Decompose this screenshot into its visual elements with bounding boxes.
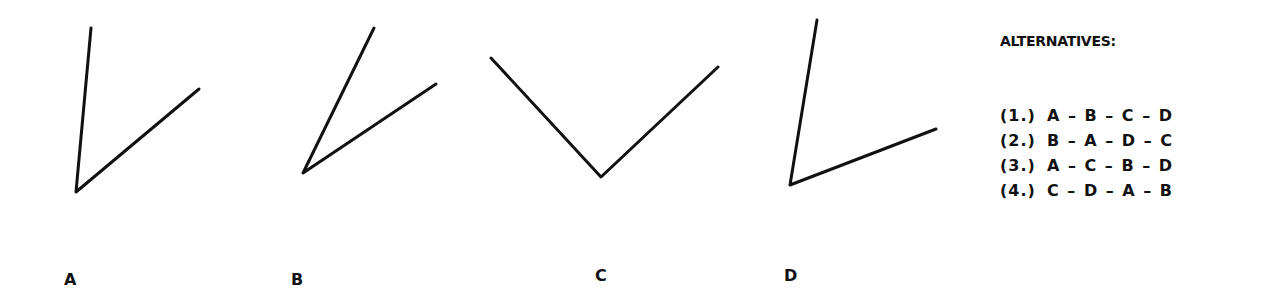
figure-label-a: A (64, 270, 76, 289)
option-number: (4.) (1000, 178, 1047, 203)
figure-label-c: C (595, 266, 607, 285)
figure-label-d: D (784, 266, 797, 285)
alternatives-title: ALTERNATIVES: (1000, 33, 1172, 49)
alternative-option-2[interactable]: (2.) B – A – D – C (1000, 128, 1172, 153)
option-sequence: C – D – A – B (1047, 178, 1172, 203)
option-sequence: A – C – B – D (1047, 153, 1172, 178)
angle-b (303, 28, 436, 173)
alternative-option-1[interactable]: (1.) A – B – C – D (1000, 103, 1172, 128)
option-number: (3.) (1000, 153, 1047, 178)
figure-label-b: B (291, 270, 303, 289)
alternative-option-4[interactable]: (4.) C – D – A – B (1000, 178, 1172, 203)
alternative-option-3[interactable]: (3.) A – C – B – D (1000, 153, 1172, 178)
option-sequence: A – B – C – D (1047, 103, 1172, 128)
angle-d (790, 20, 936, 185)
angle-a (76, 28, 199, 192)
option-sequence: B – A – D – C (1047, 128, 1172, 153)
option-number: (2.) (1000, 128, 1047, 153)
angle-c (491, 58, 718, 177)
option-number: (1.) (1000, 103, 1047, 128)
alternatives-panel: ALTERNATIVES: (1.) A – B – C – D (2.) B … (1000, 33, 1172, 203)
